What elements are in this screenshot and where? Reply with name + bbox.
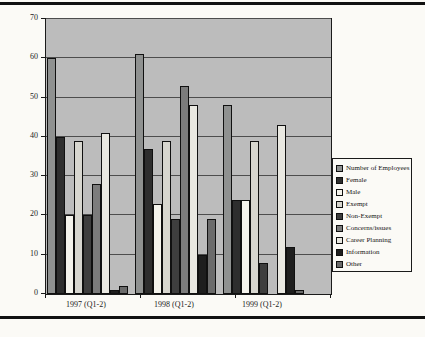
legend-marker	[336, 225, 343, 232]
bar-information	[110, 290, 119, 294]
bar-career-planning	[189, 105, 198, 294]
x-axis-tick	[45, 294, 46, 298]
legend-marker	[336, 213, 343, 220]
bar-other	[119, 286, 128, 294]
y-axis-tick-label: 60	[16, 53, 38, 61]
gridline	[46, 57, 331, 58]
y-axis-tick	[41, 18, 45, 19]
legend-marker	[336, 249, 343, 256]
legend-item: Exempt	[336, 198, 411, 210]
legend-item: Number of Employees	[336, 162, 411, 174]
bottom-rule	[0, 316, 425, 319]
legend-item: Career Planning	[336, 234, 411, 246]
y-axis-tick	[41, 97, 45, 98]
bar-number-of-employees	[223, 105, 232, 294]
legend-label: Information	[346, 249, 379, 256]
legend-marker	[336, 177, 343, 184]
y-axis-tick-label: 70	[16, 14, 38, 22]
legend-marker	[336, 165, 343, 172]
y-axis-tick-label: 50	[16, 93, 38, 101]
legend-label: Exempt	[346, 201, 368, 208]
legend-label: Male	[346, 189, 360, 196]
legend-item: Female	[336, 174, 411, 186]
bar-other	[295, 290, 304, 294]
legend-label: Other	[346, 261, 362, 268]
bar-career-planning	[277, 125, 286, 294]
gridline	[46, 18, 331, 19]
legend-label: Number of Employees	[346, 165, 409, 172]
top-rule	[0, 2, 425, 5]
y-axis-tick-label: 20	[16, 210, 38, 218]
legend-label: Female	[346, 177, 367, 184]
x-axis-tick	[235, 294, 236, 298]
bar-male	[65, 215, 74, 294]
y-axis-tick	[41, 175, 45, 176]
bar-male	[153, 204, 162, 294]
legend-label: Career Planning	[346, 237, 391, 244]
legend-item: Concerns/issues	[336, 222, 411, 234]
bar-non-exempt	[171, 219, 180, 294]
y-axis-tick	[41, 136, 45, 137]
bar-number-of-employees	[135, 54, 144, 294]
bar-exempt	[162, 141, 171, 294]
legend-marker	[336, 261, 343, 268]
legend-label: Non-Exempt	[346, 213, 382, 220]
legend-item: Other	[336, 258, 411, 270]
y-axis-tick-label: 40	[16, 132, 38, 140]
y-axis-tick-label: 0	[16, 289, 38, 297]
bar-information	[286, 247, 295, 294]
bar-male	[241, 200, 250, 294]
legend-marker	[336, 189, 343, 196]
legend-item: Information	[336, 246, 411, 258]
legend-box: Number of EmployeesFemaleMaleExemptNon-E…	[332, 158, 412, 272]
bar-female	[144, 149, 153, 294]
legend-item: Non-Exempt	[336, 210, 411, 222]
bar-concerns-issues	[92, 184, 101, 294]
x-axis-category-label: 1999 (Q1-2)	[217, 300, 307, 309]
legend-marker	[336, 237, 343, 244]
x-axis-category-label: 1998 (Q1-2)	[129, 300, 219, 309]
legend-label: Concerns/issues	[346, 225, 391, 232]
document-page: 010203040506070 1997 (Q1-2)1998 (Q1-2)19…	[0, 0, 425, 337]
bar-concerns-issues	[180, 86, 189, 294]
legend-item: Male	[336, 186, 411, 198]
x-axis-tick	[330, 294, 331, 298]
bar-exempt	[74, 141, 83, 294]
x-axis-tick	[140, 294, 141, 298]
y-axis-tick-label: 10	[16, 250, 38, 258]
gridline	[46, 97, 331, 98]
y-axis-tick	[41, 214, 45, 215]
bar-non-exempt	[259, 263, 268, 294]
x-axis-category-label: 1997 (Q1-2)	[41, 300, 131, 309]
y-axis-tick-label: 30	[16, 171, 38, 179]
bar-female	[232, 200, 241, 294]
bar-number-of-employees	[47, 58, 56, 294]
bar-exempt	[250, 141, 259, 294]
bar-female	[56, 137, 65, 294]
legend-marker	[336, 201, 343, 208]
y-axis-tick	[41, 57, 45, 58]
bar-information	[198, 255, 207, 294]
bar-other	[207, 219, 216, 294]
plot-area	[45, 18, 332, 295]
bar-career-planning	[101, 133, 110, 294]
bar-non-exempt	[83, 215, 92, 294]
y-axis-tick	[41, 254, 45, 255]
